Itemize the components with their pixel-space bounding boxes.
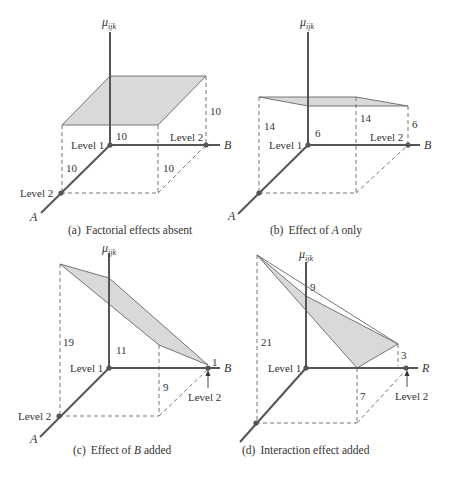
a-axis-label: A bbox=[29, 210, 38, 224]
panel-d: μijk R Level 1 Level 2 9 3 21 7 (d)Inter… bbox=[240, 247, 430, 457]
factorial-effects-figure: μijk B A Level 1 Level 2 Level 2 10 10 1… bbox=[0, 0, 453, 482]
level1-label: Level 1 bbox=[268, 362, 301, 374]
value-a1b2: 1 bbox=[212, 356, 218, 368]
a-axis bbox=[41, 145, 110, 213]
value-a1b1: 9 bbox=[310, 281, 316, 293]
response-plane bbox=[62, 76, 206, 125]
value-a2b2: 14 bbox=[360, 112, 372, 124]
response-plane bbox=[257, 255, 398, 368]
value-a1b2: 10 bbox=[210, 105, 222, 117]
caption-a: (a)Factorial effects absent bbox=[68, 224, 193, 237]
response-plane bbox=[259, 97, 408, 106]
value-a2b1: 14 bbox=[264, 120, 276, 132]
value-a2b2: 9 bbox=[163, 381, 169, 393]
arrowhead-icon bbox=[405, 370, 410, 376]
value-a2b1: 10 bbox=[66, 162, 78, 174]
a-axis bbox=[238, 145, 308, 214]
caption-c: (c)Effect of B added bbox=[73, 444, 172, 457]
a-axis bbox=[40, 368, 109, 437]
b-axis-label: R bbox=[421, 361, 430, 375]
a-axis-label: A bbox=[29, 432, 38, 446]
level1-label: Level 1 bbox=[269, 139, 302, 151]
b-level2-label: Level 2 bbox=[370, 131, 403, 143]
mu-axis-label: μijk bbox=[298, 247, 313, 263]
value-a2b1: 19 bbox=[63, 336, 75, 348]
value-a1b1: 10 bbox=[116, 130, 128, 142]
panel-a: μijk B A Level 1 Level 2 Level 2 10 10 1… bbox=[20, 15, 232, 237]
b-axis-label: B bbox=[224, 138, 232, 152]
value-a1b2: 3 bbox=[401, 349, 407, 361]
caption-b: (b)Effect of A only bbox=[270, 224, 362, 237]
value-a2b2: 10 bbox=[163, 162, 175, 174]
b-level2-label: Level 2 bbox=[170, 131, 203, 143]
value-a2b1: 21 bbox=[261, 336, 272, 348]
a-level2-label: Level 2 bbox=[18, 410, 51, 422]
level1-label: Level 1 bbox=[71, 139, 104, 151]
response-plane bbox=[60, 264, 208, 365]
panel-b: μijk B A Level 1 Level 2 6 6 14 14 (b)Ef… bbox=[227, 15, 432, 237]
value-a2b2: 7 bbox=[360, 390, 366, 402]
mu-axis-label: μijk bbox=[101, 15, 116, 31]
b-axis-label: B bbox=[224, 361, 232, 375]
value-a1b2: 6 bbox=[412, 118, 418, 130]
a-level2-label: Level 2 bbox=[20, 187, 53, 199]
caption-d: (d)Interaction effect added bbox=[242, 444, 370, 457]
mu-axis-label: μijk bbox=[101, 241, 116, 257]
a-axis-label: A bbox=[227, 209, 236, 223]
b-axis-label: B bbox=[424, 138, 432, 152]
a-axis bbox=[240, 368, 306, 442]
value-a1b1: 6 bbox=[315, 127, 321, 139]
mu-axis-label: μijk bbox=[299, 15, 314, 31]
level1-label: Level 1 bbox=[70, 362, 103, 374]
b-level2-label: Level 2 bbox=[395, 390, 428, 402]
value-a1b1: 11 bbox=[116, 344, 127, 356]
panel-c: μijk B A Level 1 Level 2 Level 2 11 1 19… bbox=[18, 241, 232, 457]
b-level2-label: Level 2 bbox=[188, 391, 221, 403]
